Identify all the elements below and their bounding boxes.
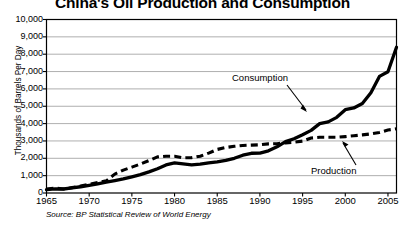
x-tick-label: 1970 xyxy=(69,195,109,206)
annotation-label-production: Production xyxy=(311,166,356,176)
y-tick-label: 10,000 xyxy=(3,15,43,24)
x-tick-label: 1965 xyxy=(27,195,67,206)
chart-container: China's Oil Production and Consumption T… xyxy=(0,0,405,228)
annotation-leader-production xyxy=(342,141,356,165)
y-tick-label: 4,000 xyxy=(3,119,43,128)
y-tick-label: 8,000 xyxy=(3,49,43,58)
y-tick-label: 5,000 xyxy=(3,101,43,110)
annotation-label-consumption: Consumption xyxy=(232,73,288,83)
x-tick-label: 1980 xyxy=(155,195,195,206)
series-line-production xyxy=(47,129,397,189)
source-note: Source: BP Statistical Review of World E… xyxy=(46,210,211,219)
y-tick-label: 1,000 xyxy=(3,171,43,180)
x-tick-label: 1975 xyxy=(112,195,152,206)
y-tick-label: 9,000 xyxy=(3,32,43,41)
x-tick-label: 2000 xyxy=(325,195,365,206)
y-tick-label: 3,000 xyxy=(3,136,43,145)
x-axis-tick-labels: 196519701975198019851990199520002005 xyxy=(0,195,405,209)
y-tick-label: 6,000 xyxy=(3,84,43,93)
gridlines xyxy=(47,20,397,176)
x-tick-label: 1990 xyxy=(240,195,280,206)
chart-title: China's Oil Production and Consumption xyxy=(0,0,405,11)
y-tick-label: 2,000 xyxy=(3,153,43,162)
plot-area xyxy=(0,0,405,228)
x-tick-label: 1995 xyxy=(283,195,323,206)
y-tick-label: 7,000 xyxy=(3,67,43,76)
y-axis-tick-labels: 01,0002,0003,0004,0005,0006,0007,0008,00… xyxy=(0,0,43,228)
x-tick-label: 2005 xyxy=(368,195,405,206)
x-tick-label: 1985 xyxy=(197,195,237,206)
